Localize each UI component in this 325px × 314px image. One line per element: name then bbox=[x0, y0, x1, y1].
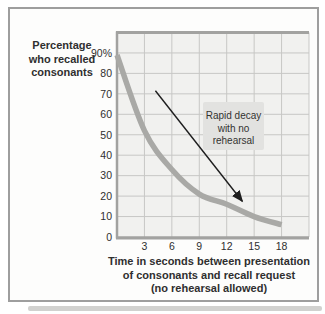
x-axis-title: Time in seconds between presentation of … bbox=[96, 255, 322, 296]
memory-decay-figure: 90%80706050403020100369121518 Percentage… bbox=[0, 0, 325, 314]
y-tick-label: 60 bbox=[100, 108, 112, 120]
x-tick-label: 15 bbox=[248, 240, 260, 252]
y-tick-label: 10 bbox=[100, 210, 112, 222]
y-axis-title-line: consonants bbox=[16, 66, 108, 80]
annotation-box: Rapid decay with no rehearsal bbox=[203, 102, 264, 150]
x-axis-title-line: of consonants and recall request bbox=[96, 269, 322, 283]
x-tick-labels: 369121518 bbox=[142, 240, 288, 252]
y-tick-label: 50 bbox=[100, 129, 112, 141]
y-axis-title-line: who recalled bbox=[16, 53, 108, 67]
x-axis-title-line: (no rehearsal allowed) bbox=[96, 282, 322, 296]
y-axis-title-line: Percentage bbox=[16, 39, 108, 53]
y-axis-title: Percentage who recalled consonants bbox=[16, 39, 108, 80]
annotation-line: rehearsal bbox=[203, 135, 264, 148]
y-tick-label: 70 bbox=[100, 88, 112, 100]
y-tick-label: 0 bbox=[106, 231, 112, 243]
x-tick-label: 18 bbox=[276, 240, 288, 252]
y-tick-label: 40 bbox=[100, 149, 112, 161]
x-tick-label: 3 bbox=[142, 240, 148, 252]
x-tick-label: 12 bbox=[221, 240, 233, 252]
x-tick-label: 9 bbox=[196, 240, 202, 252]
x-tick-label: 6 bbox=[169, 240, 175, 252]
annotation-line: with no bbox=[203, 123, 264, 136]
x-axis-title-line: Time in seconds between presentation bbox=[96, 255, 322, 269]
annotation-line: Rapid decay bbox=[203, 110, 264, 123]
card-bottom-shadow bbox=[28, 306, 322, 311]
y-tick-label: 20 bbox=[100, 190, 112, 202]
y-tick-label: 30 bbox=[100, 169, 112, 181]
